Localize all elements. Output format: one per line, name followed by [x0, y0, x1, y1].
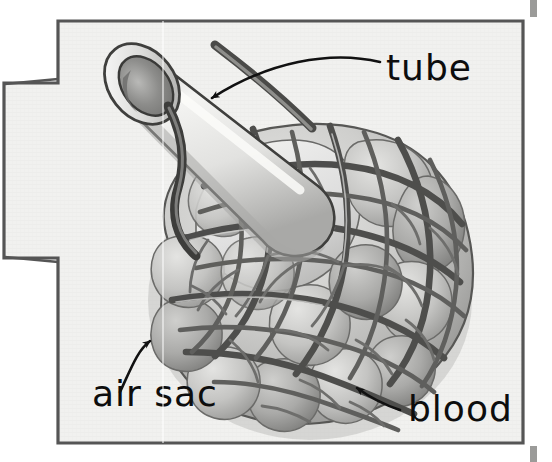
label-tube: tube: [386, 47, 472, 88]
label-air-sac: air sac: [92, 373, 218, 414]
label-blood: blood: [408, 388, 513, 429]
scan-line-artifact: [162, 21, 164, 443]
edge-mark-bottom-right: [530, 446, 537, 462]
edge-mark-top-right: [530, 0, 537, 17]
alveolar-sac-diagram: tube air sac blood: [0, 0, 552, 462]
figure-illustration: tube air sac blood: [0, 0, 552, 462]
